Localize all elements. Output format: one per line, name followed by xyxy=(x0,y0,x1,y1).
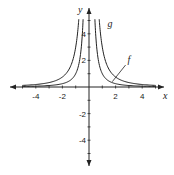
y-tick-label: 2 xyxy=(82,56,87,65)
y-arrow-down-icon xyxy=(87,160,92,166)
y-tick-label: -4 xyxy=(79,136,87,145)
x-axis-label: x xyxy=(162,90,168,101)
x-tick-label: 4 xyxy=(140,92,145,101)
curve-f xyxy=(95,19,156,86)
curve-g xyxy=(23,19,79,85)
x-tick-label: -2 xyxy=(59,92,67,101)
x-tick-label: 2 xyxy=(113,92,118,101)
x-tick-label: -4 xyxy=(32,92,40,101)
annotation-g: g xyxy=(108,18,113,29)
x-arrow-left-icon xyxy=(10,85,16,90)
x-arrow-right-icon xyxy=(158,85,164,90)
curve-f xyxy=(23,19,84,86)
y-tick-label: -2 xyxy=(79,110,87,119)
y-axis-label: y xyxy=(77,4,83,15)
axes xyxy=(10,8,164,166)
y-tick-label: 4 xyxy=(82,30,87,39)
y-arrow-up-icon xyxy=(87,8,92,14)
annotation-f: f xyxy=(128,54,132,65)
plot-area: -4-22442-2-4xyfg xyxy=(0,0,174,175)
